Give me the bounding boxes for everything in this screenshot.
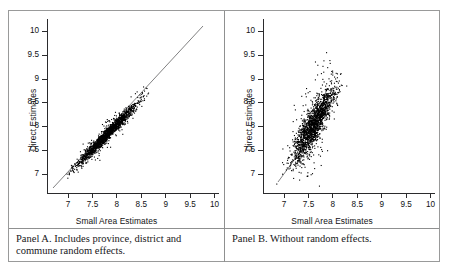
y-tick: 10 — [42, 31, 47, 32]
y-tick-label: 8.5 — [244, 97, 255, 106]
x-tick-label: 7.5 — [87, 200, 98, 209]
panels-row: Direct Estimates Small Area Estimates 77… — [9, 11, 439, 228]
y-tick-label: 7 — [250, 169, 255, 178]
y-tick: 9.5 — [258, 55, 263, 56]
panel-a-points — [67, 86, 150, 178]
y-tick-label: 7 — [34, 169, 39, 178]
x-tick: 9.5 — [190, 193, 191, 198]
x-tick-label: 10 — [426, 200, 435, 209]
panel-a-reference-line — [53, 26, 203, 188]
x-tick-label: 8 — [331, 200, 336, 209]
x-tick: 10 — [430, 193, 431, 198]
panel-b: Direct Estimates Small Area Estimates 77… — [224, 11, 439, 228]
x-tick: 8 — [332, 193, 333, 198]
y-tick: 8 — [42, 126, 47, 127]
panel-b-caption: Panel B. Without random effects. — [224, 229, 439, 262]
y-tick: 7 — [42, 174, 47, 175]
y-tick-label: 8 — [34, 121, 39, 130]
panel-a-x-axis-line — [47, 193, 219, 194]
x-tick: 7 — [284, 193, 285, 198]
panel-a: Direct Estimates Small Area Estimates 77… — [9, 11, 224, 228]
y-tick-label: 10 — [246, 26, 255, 35]
panel-a-plot-area — [48, 19, 219, 193]
x-tick: 9 — [381, 193, 382, 198]
panel-a-caption: Panel A. Includes province, district and… — [9, 229, 224, 262]
x-tick-label: 8 — [115, 200, 120, 209]
y-tick: 8.5 — [258, 102, 263, 103]
y-tick: 7 — [258, 174, 263, 175]
x-tick-label: 8.5 — [352, 200, 363, 209]
x-tick-label: 7 — [282, 200, 287, 209]
x-tick: 7 — [68, 193, 69, 198]
x-tick-label: 7.5 — [303, 200, 314, 209]
x-tick-label: 8.5 — [136, 200, 147, 209]
panel-a-scatter-svg — [48, 19, 219, 193]
x-tick: 10 — [214, 193, 215, 198]
panel-b-plot: Direct Estimates Small Area Estimates 77… — [225, 11, 439, 228]
y-tick: 7.5 — [258, 150, 263, 151]
x-tick: 8 — [116, 193, 117, 198]
y-tick-label: 7.5 — [28, 145, 39, 154]
y-tick: 9 — [258, 79, 263, 80]
y-tick: 8.5 — [42, 102, 47, 103]
y-tick: 9 — [42, 79, 47, 80]
y-tick-label: 9.5 — [244, 50, 255, 59]
panel-b-plot-area — [264, 19, 435, 193]
y-tick-label: 10 — [30, 26, 39, 35]
x-tick-label: 9.5 — [184, 200, 195, 209]
panel-b-x-axis-label: Small Area Estimates — [225, 216, 439, 226]
x-tick: 9 — [165, 193, 166, 198]
panel-b-points — [276, 52, 347, 187]
y-tick-label: 9 — [250, 74, 255, 83]
x-tick-label: 10 — [210, 200, 219, 209]
figure-container: Direct Estimates Small Area Estimates 77… — [8, 10, 440, 262]
x-tick-label: 9.5 — [400, 200, 411, 209]
y-tick: 9.5 — [42, 55, 47, 56]
x-tick-label: 7 — [66, 200, 71, 209]
y-tick-label: 8 — [250, 121, 255, 130]
x-tick: 8.5 — [357, 193, 358, 198]
y-tick: 8 — [258, 126, 263, 127]
y-tick: 10 — [258, 31, 263, 32]
y-tick: 7.5 — [42, 150, 47, 151]
panel-a-x-axis-label: Small Area Estimates — [9, 216, 224, 226]
panel-b-scatter-svg — [264, 19, 435, 193]
x-tick: 8.5 — [141, 193, 142, 198]
y-tick-label: 9.5 — [28, 50, 39, 59]
x-tick-label: 9 — [380, 200, 385, 209]
y-tick-label: 9 — [34, 74, 39, 83]
captions-row: Panel A. Includes province, district and… — [9, 228, 439, 262]
x-tick-label: 9 — [164, 200, 169, 209]
y-tick-label: 8.5 — [28, 97, 39, 106]
x-tick: 7.5 — [92, 193, 93, 198]
y-tick-label: 7.5 — [244, 145, 255, 154]
x-tick: 7.5 — [308, 193, 309, 198]
x-tick: 9.5 — [406, 193, 407, 198]
panel-a-plot: Direct Estimates Small Area Estimates 77… — [9, 11, 224, 228]
panel-b-x-axis-line — [263, 193, 435, 194]
